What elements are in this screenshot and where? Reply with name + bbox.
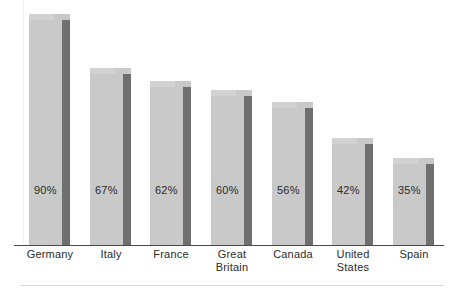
- bar-value-label: 67%: [95, 184, 118, 196]
- bar-shadow: [305, 108, 313, 246]
- x-label-line: France: [140, 248, 202, 261]
- x-label-france: France: [140, 248, 202, 261]
- x-axis-labels: Germany Italy France Great Britain Canad…: [0, 248, 458, 282]
- x-label-line: States: [322, 261, 384, 274]
- bar-great-britain[interactable]: 60%: [211, 90, 252, 246]
- bar-spain[interactable]: 35%: [393, 158, 434, 246]
- bar-value-label: 56%: [277, 184, 300, 196]
- bar-shadow: [365, 144, 373, 246]
- bar-germany[interactable]: 90%: [29, 14, 70, 246]
- x-label-line: Italy: [80, 248, 142, 261]
- bar-shadow: [183, 87, 191, 246]
- x-label-line: Canada: [262, 248, 324, 261]
- x-label-line: United: [322, 248, 384, 261]
- bar-canada[interactable]: 56%: [272, 102, 313, 246]
- x-label-spain: Spain: [383, 248, 445, 261]
- x-axis-line: [14, 245, 444, 246]
- bar-value-label: 42%: [337, 184, 360, 196]
- bar-shadow: [426, 164, 434, 246]
- bar-value-label: 62%: [155, 184, 178, 196]
- bar-value-label: 90%: [34, 184, 57, 196]
- bar-france[interactable]: 62%: [150, 81, 191, 246]
- x-label-line: Spain: [383, 248, 445, 261]
- bar-shadow: [244, 96, 252, 246]
- x-label-canada: Canada: [262, 248, 324, 261]
- x-label-italy: Italy: [80, 248, 142, 261]
- x-label-germany: Germany: [19, 248, 81, 261]
- x-label-united-states: United States: [322, 248, 384, 274]
- x-label-line: Germany: [19, 248, 81, 261]
- x-label-great-britain: Great Britain: [201, 248, 263, 274]
- bottom-rule: [20, 285, 444, 286]
- bar-united-states[interactable]: 42%: [332, 138, 373, 246]
- bar-value-label: 60%: [216, 184, 239, 196]
- x-label-line: Britain: [201, 261, 263, 274]
- bar-italy[interactable]: 67%: [90, 68, 131, 246]
- bar-shadow: [123, 74, 131, 246]
- x-label-line: Great: [201, 248, 263, 261]
- bar-value-label: 35%: [398, 184, 421, 196]
- plot-area: 90% 67% 62% 60% 56% 42%: [0, 0, 458, 246]
- bar-shadow: [62, 20, 70, 246]
- bar-chart: 90% 67% 62% 60% 56% 42%: [0, 0, 458, 295]
